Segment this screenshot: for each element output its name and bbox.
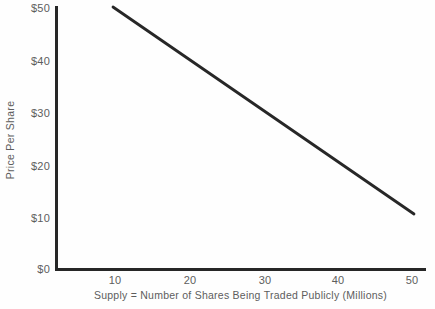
plot-area [0,0,435,309]
y-axis-title-text: Price Per Share [4,101,16,180]
x-tick-label: 10 [95,274,135,286]
x-tick-label: 20 [170,274,210,286]
y-tick-10: $10 [0,212,50,225]
y-tick-50: $50 [0,2,50,15]
chart-canvas: $50 $40 $30 $20 $10 $0 10 20 30 40 50 Pr… [0,0,435,309]
y-tick-label: $0 [0,263,50,275]
x-tick-30: 30 [245,274,285,288]
y-tick-0: $0 [0,263,50,276]
x-tick-label: 40 [318,274,358,286]
y-tick-40: $40 [0,55,50,68]
x-tick-label: 50 [392,274,432,286]
y-tick-label: $40 [0,55,50,67]
supply-curve-line [113,7,414,214]
x-tick-10: 10 [95,274,135,288]
x-tick-20: 20 [170,274,210,288]
y-tick-label: $50 [0,2,50,14]
x-tick-label: 30 [245,274,285,286]
x-tick-50: 50 [392,274,432,288]
x-tick-40: 40 [318,274,358,288]
y-axis-line [55,6,58,271]
x-axis-title: Supply = Number of Shares Being Traded P… [55,289,426,301]
y-tick-label: $10 [0,212,50,224]
y-axis-title: Price Per Share [3,90,17,190]
x-axis-line [55,268,426,271]
